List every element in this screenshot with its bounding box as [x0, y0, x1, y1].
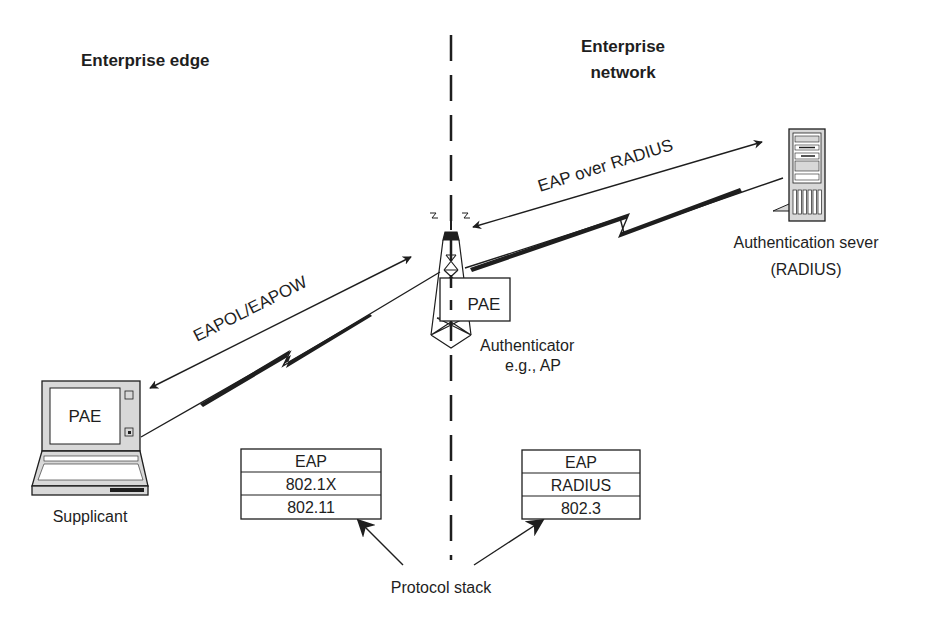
region-label-enterprise-network-line2: network: [590, 63, 656, 82]
region-label-enterprise-network-line1: Enterprise: [581, 37, 665, 56]
supplicant-caption: Supplicant: [53, 508, 128, 525]
eapol-label: EAPOL/EAPOW: [190, 272, 310, 345]
stack-layer: 802.3: [561, 500, 601, 517]
pointer-arrow-right-stack: [474, 520, 543, 565]
server-caption-line1: Authentication sever: [734, 234, 880, 251]
stack-layer: 802.11: [287, 499, 335, 516]
authenticator-caption-line1: Authenticator: [480, 337, 575, 354]
protocol-stack-caption: Protocol stack: [391, 579, 492, 596]
stack-layer: EAP: [295, 453, 327, 470]
stack-layer: EAP: [565, 454, 597, 471]
eap-8021x-diagram: Enterprise edge Enterprise network EAPOL…: [0, 0, 926, 623]
stack-layer: 802.1X: [286, 476, 337, 493]
region-label-enterprise-edge: Enterprise edge: [81, 51, 210, 70]
pointer-arrow-left-stack: [358, 520, 403, 565]
server-icon: [773, 129, 825, 221]
supplicant-pae-label: PAE: [69, 407, 102, 426]
stack-layer: RADIUS: [551, 477, 611, 494]
authenticator-pae-label: PAE: [468, 295, 501, 314]
protocol-stack-right: EAP RADIUS 802.3: [522, 450, 640, 519]
access-point-tower-icon: [430, 195, 471, 348]
eap-over-radius-label: EAP over RADIUS: [535, 135, 675, 195]
lightning-bolt-icon: [470, 188, 742, 272]
authenticator-caption-line2: e.g., AP: [505, 357, 561, 374]
server-caption-line2: (RADIUS): [770, 261, 841, 278]
eapol-arrow: [150, 257, 411, 388]
protocol-stack-left: EAP 802.1X 802.11: [241, 449, 381, 519]
laptop-icon: [32, 381, 148, 495]
